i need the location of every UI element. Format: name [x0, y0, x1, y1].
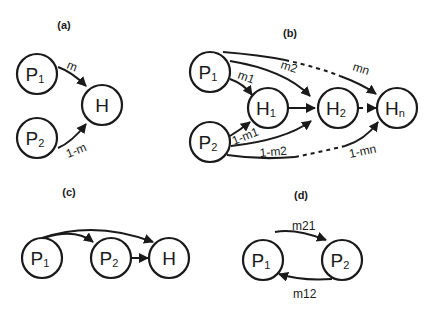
edge-p1-h — [42, 230, 153, 242]
panel-d-label: (d) — [294, 189, 308, 201]
panel-c: (c) P1 P2 H — [22, 186, 189, 278]
panel-c-label: (c) — [62, 186, 76, 198]
svg-text:1-m2: 1-m2 — [259, 144, 288, 160]
svg-text:H: H — [95, 95, 109, 116]
svg-text:H: H — [162, 248, 176, 269]
node-p1: P1 — [22, 238, 62, 278]
node-p2: P2 — [190, 122, 230, 162]
svg-text:mn: mn — [351, 60, 371, 78]
node-p2: P2 — [17, 118, 57, 158]
panel-d: (d) m21 m12 P1 P2 — [243, 189, 362, 301]
node-p1: P1 — [243, 240, 283, 280]
edge-p2-hn-dashed — [295, 146, 345, 157]
node-h: H — [149, 238, 189, 278]
node-h1: H1 — [248, 88, 288, 128]
node-h: H — [82, 85, 122, 125]
edge-label-m12: m12 — [293, 287, 317, 301]
node-h2: H2 — [318, 88, 358, 128]
migration-diagram: (a) m 1-m P1 P2 H (b) m1 m2 mn — [0, 0, 432, 309]
panel-a-label: (a) — [57, 19, 71, 31]
svg-text:1-mn: 1-mn — [348, 142, 378, 161]
node-p1: P1 — [17, 54, 57, 94]
panel-a: (a) m 1-m P1 P2 H — [17, 19, 122, 161]
panel-b-label: (b) — [283, 27, 297, 39]
edge-p1-hn-solid — [223, 52, 285, 60]
edge-label-m21: m21 — [292, 219, 316, 233]
node-hn: Hn — [377, 88, 417, 128]
node-p1: P1 — [190, 52, 230, 92]
node-p2: P2 — [322, 240, 362, 280]
panel-b: (b) m1 m2 mn 1-m1 1-m2 1-mn P1 — [190, 27, 417, 162]
edge-p2-p1 — [279, 274, 332, 279]
node-p2: P2 — [91, 238, 131, 278]
